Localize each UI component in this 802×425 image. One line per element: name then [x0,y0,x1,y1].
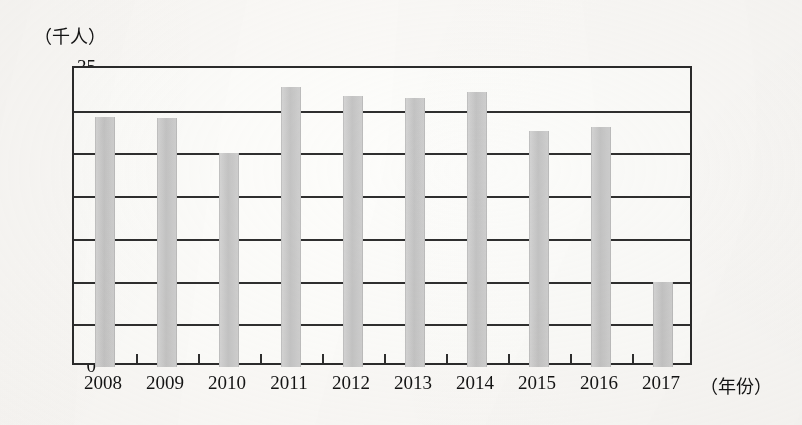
x-axis-tick-mark [260,354,262,363]
x-axis-tick-mark [384,354,386,363]
x-axis-tick-label-2013: 2013 [381,372,445,394]
bar-2008 [95,117,115,367]
x-axis-tick-label-2010: 2010 [195,372,259,394]
bar-2015 [529,131,549,367]
bar-2009 [157,118,177,367]
x-axis-tick-label-2016: 2016 [567,372,631,394]
x-axis-tick-mark [198,354,200,363]
x-axis-unit-label: （年份） [700,372,772,398]
gridline [74,111,690,113]
bar-2012 [343,96,363,367]
x-axis-tick-label-2008: 2008 [71,372,135,394]
x-axis-tick-mark [446,354,448,363]
x-axis-tick-label-2011: 2011 [257,372,321,394]
bar-2011 [281,87,301,367]
x-axis-tick-mark [136,354,138,363]
x-axis-tick-label-2017: 2017 [629,372,693,394]
bar-2010 [219,153,239,367]
x-axis-tick-mark [570,354,572,363]
plot-area [72,66,692,365]
bar-2016 [591,127,611,367]
bar-2014 [467,92,487,367]
x-axis-tick-mark [322,354,324,363]
bar-2017 [653,282,673,367]
x-axis-tick-mark [508,354,510,363]
bar-chart-figure: （千人） 05101520253035 20082009201020112012… [0,0,802,425]
x-axis-tick-label-2015: 2015 [505,372,569,394]
y-axis-unit-label: （千人） [34,22,106,48]
x-axis-tick-label-2012: 2012 [319,372,383,394]
bar-2013 [405,98,425,367]
plot-inner [74,68,690,363]
x-axis-tick-label-2014: 2014 [443,372,507,394]
x-axis-tick-label-2009: 2009 [133,372,197,394]
x-axis-tick-mark [632,354,634,363]
